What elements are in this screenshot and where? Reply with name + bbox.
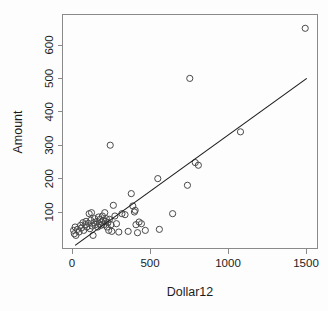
x-tick-label: 1500 [293, 257, 319, 269]
y-tick-label: 600 [43, 35, 55, 54]
scatter-plot-figure: 050010001500 100200300400500600 Dollar12… [0, 0, 328, 311]
y-tick-label: 500 [43, 69, 55, 88]
y-tick-label: 200 [43, 169, 55, 188]
plot-canvas: 050010001500 100200300400500600 Dollar12… [0, 0, 328, 311]
x-tick-label: 0 [69, 257, 75, 269]
x-tick-label: 1000 [215, 257, 241, 269]
y-tick-label: 100 [43, 202, 55, 221]
x-axis-title: Dollar12 [167, 285, 214, 299]
y-tick-label: 400 [43, 102, 55, 121]
y-tick-label: 300 [43, 136, 55, 155]
x-tick-label: 500 [140, 257, 159, 269]
y-axis-title: Amount [11, 110, 25, 154]
